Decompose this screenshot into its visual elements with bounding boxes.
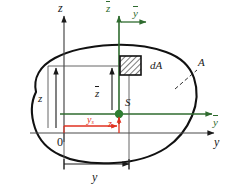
label-axis-z-global: z (58, 2, 63, 14)
label-axis-z-centroidal: z (106, 3, 110, 14)
label-dim-ys: ys (87, 115, 94, 126)
label-area-element-dA: dA (150, 60, 162, 71)
label-axis-y-centroidal-top: y (133, 8, 138, 19)
diagram-canvas (0, 0, 232, 193)
label-axis-y-centroidal-right: y (213, 117, 218, 128)
label-area-A: A (198, 57, 205, 68)
label-dim-zs-subscript: s (112, 122, 114, 129)
area-element-dA (120, 56, 141, 75)
label-centroid-S: S (125, 97, 131, 108)
label-dim-zs: zs (108, 119, 114, 130)
label-dim-y-global: y (92, 171, 97, 183)
label-dim-z-global: z (38, 93, 42, 104)
label-axis-y-global: y (214, 136, 219, 148)
label-dim-ys-subscript: s (91, 118, 93, 125)
cross-section-centroid-figure: z z y y y 0 S dA A z z y ys zs (0, 0, 232, 193)
label-origin: 0 (57, 136, 63, 148)
centroid-marker (115, 110, 123, 118)
label-dim-z-centroidal: z (95, 88, 99, 99)
